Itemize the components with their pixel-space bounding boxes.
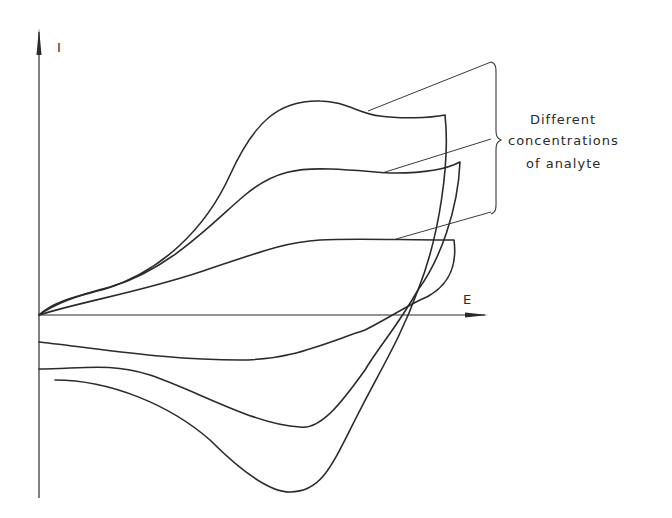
annotation: Different concentrations of analyte bbox=[508, 112, 619, 171]
annotation-brace bbox=[491, 62, 501, 214]
x-axis: E bbox=[39, 292, 488, 318]
y-axis-arrowhead-icon bbox=[37, 28, 42, 55]
cyclic-voltammogram-chart: I E Different concentrations of analyte bbox=[0, 0, 672, 518]
annotation-line-1: Different bbox=[530, 112, 596, 127]
curve-high-concentration bbox=[39, 101, 446, 492]
curve-low-concentration bbox=[39, 239, 455, 360]
leader-line-medium bbox=[382, 139, 491, 173]
leader-line-high bbox=[368, 62, 491, 111]
curve-medium-concentration bbox=[39, 162, 460, 427]
y-axis-label: I bbox=[57, 40, 61, 55]
leader-line-low bbox=[396, 212, 491, 239]
annotation-line-2: concentrations bbox=[508, 133, 619, 148]
annotation-leaders bbox=[368, 62, 491, 239]
x-axis-arrowhead-icon bbox=[465, 313, 488, 318]
x-axis-label: E bbox=[463, 292, 471, 307]
y-axis: I bbox=[37, 28, 61, 498]
annotation-line-3: of analyte bbox=[526, 156, 601, 171]
